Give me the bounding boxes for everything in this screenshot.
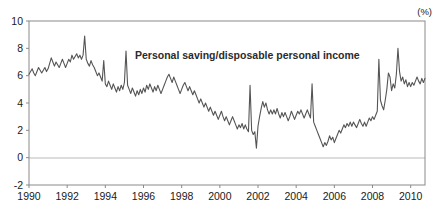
x-axis-tick-label: 1990 (17, 190, 41, 202)
x-axis-tick-label: 2006 (323, 190, 347, 202)
y-axis-tick-label: 8 (17, 42, 23, 54)
chart-container: (%) -20246810 19901992199419961998200020… (0, 0, 438, 213)
x-axis-tick-label: 2010 (399, 190, 423, 202)
saving-rate-line-chart: (%) -20246810 19901992199419961998200020… (0, 0, 438, 213)
x-axis-tick-label: 1998 (170, 190, 194, 202)
y-axis-unit-label: (%) (417, 6, 432, 17)
y-axis-tick-label: 6 (17, 69, 23, 81)
x-axis-tick-label: 1996 (132, 190, 156, 202)
x-axis-tick-label: 2004 (285, 190, 309, 202)
y-axis-tick-label: 10 (11, 15, 23, 27)
x-axis-tick-label: 1992 (55, 190, 79, 202)
y-axis: -20246810 (11, 15, 29, 191)
x-axis-tick-label: 2002 (246, 190, 270, 202)
x-axis-tick-label: 2000 (208, 190, 232, 202)
x-axis: 1990199219941996199820002002200420062008… (17, 185, 422, 202)
plot-area-frame (29, 21, 425, 185)
x-axis-tick-label: 2008 (361, 190, 385, 202)
x-axis-tick-label: 1994 (94, 190, 118, 202)
y-axis-tick-label: -2 (14, 179, 23, 191)
series-title-label: Personal saving/disposable personal inco… (135, 49, 360, 61)
y-axis-tick-label: 2 (17, 124, 23, 136)
y-axis-tick-label: 0 (17, 151, 23, 163)
y-axis-tick-label: 4 (17, 97, 23, 109)
